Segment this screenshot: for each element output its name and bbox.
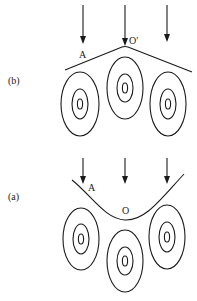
- arrowhead-icon: [80, 176, 86, 184]
- point-o-label: O: [122, 205, 129, 216]
- vortex-right-b: [150, 72, 186, 136]
- arrowhead-icon: [80, 36, 86, 44]
- arrows-b: [80, 5, 170, 46]
- vortex-middle-b: [107, 57, 143, 119]
- arrowhead-icon: [164, 34, 170, 42]
- arrowhead-icon: [122, 176, 128, 184]
- vortex-right-a: [149, 205, 185, 269]
- panel-b: (b) A O′: [8, 5, 192, 136]
- vortex-left-a: [63, 208, 99, 270]
- point-o-prime-label: O′: [129, 35, 138, 46]
- arrows-a: [80, 158, 170, 184]
- arrowhead-icon: [122, 38, 128, 46]
- diagram-canvas: (b) A O′ (a): [0, 0, 197, 301]
- point-a-label: A: [79, 49, 87, 60]
- point-a-label: A: [88, 182, 96, 193]
- arrowhead-icon: [164, 176, 170, 184]
- vortex-left-b: [61, 72, 99, 136]
- panel-a-label: (a): [8, 191, 19, 203]
- panel-a: (a) A O: [8, 158, 185, 292]
- vortex-middle-a: [107, 230, 143, 292]
- panel-b-label: (b): [8, 75, 20, 87]
